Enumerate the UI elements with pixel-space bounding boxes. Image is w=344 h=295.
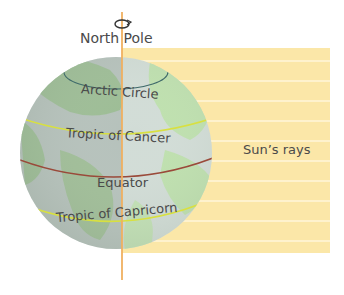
- rotation-arrow-icon: [115, 20, 131, 28]
- earth-sunlight-diagram: North Pole Arctic Circle Tropic of Cance…: [0, 0, 344, 295]
- equator-label: Equator: [97, 175, 148, 190]
- north-pole-label: North Pole: [80, 30, 153, 46]
- sun-rays-label: Sun’s rays: [243, 142, 311, 157]
